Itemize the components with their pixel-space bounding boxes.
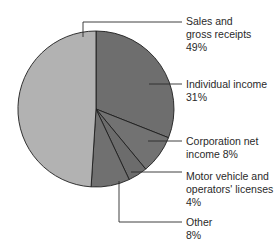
label-motor: Motor vehicle and operators' licenses 4%	[186, 170, 273, 209]
label-individual: Individual income 31%	[186, 78, 267, 104]
leader-line	[119, 181, 182, 222]
label-sales: Sales and gross receipts 49%	[186, 15, 251, 54]
label-other: Other 8%	[186, 216, 212, 242]
pie-slice	[18, 31, 96, 187]
label-corporation: Corporation net income 8%	[186, 135, 258, 161]
